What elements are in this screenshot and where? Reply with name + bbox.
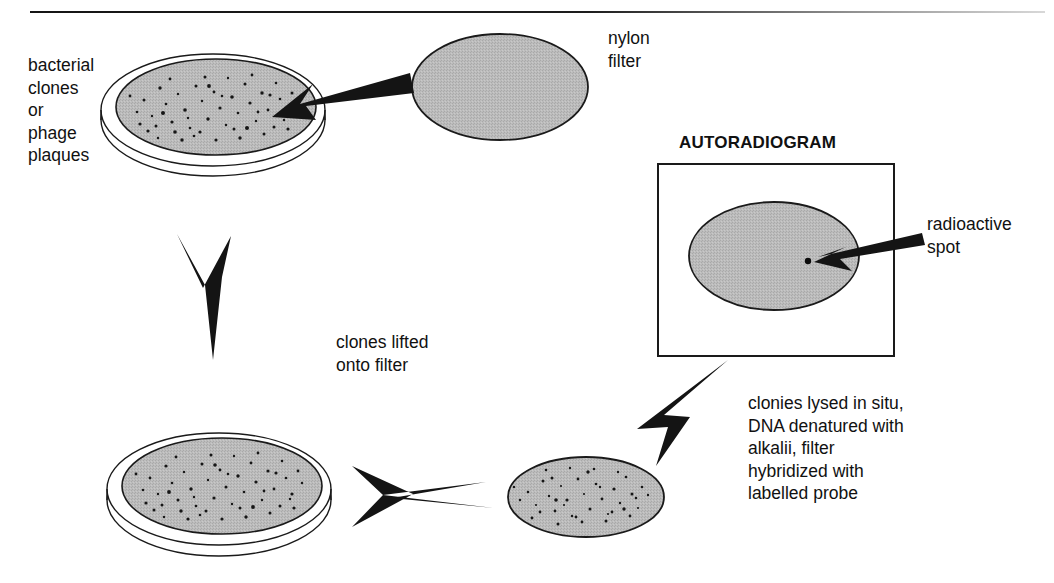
- nylon-filter-label: nylon filter: [608, 27, 650, 72]
- lift-step-label: clones lifted onto filter: [336, 331, 428, 376]
- petri-dish-after-lift: [107, 433, 331, 556]
- arrow-filter-to-film: [637, 360, 728, 466]
- source-plate-label: bacterial clones or phage plaques: [28, 54, 94, 167]
- arrow-plate-to-filter: [352, 466, 494, 527]
- blank-nylon-filter-ellipse: [412, 34, 588, 140]
- autoradiogram-heading: AUTORADIOGRAM: [679, 132, 836, 155]
- hybridization-step-label: clonies lysed in situ, DNA denatured wit…: [748, 392, 904, 505]
- filter-with-transferred-colonies: [508, 457, 664, 537]
- radioactive-spot-label: radioactive spot: [927, 213, 1012, 258]
- arrow-plate-to-plate: [177, 234, 231, 360]
- figure-canvas: bacterial clones or phage plaques nylon …: [0, 0, 1054, 583]
- single-radioactive-dot: [805, 258, 811, 264]
